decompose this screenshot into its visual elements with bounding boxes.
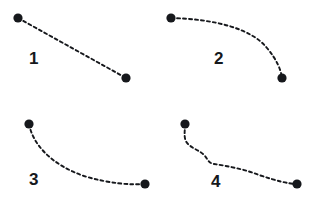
panel-4-dashed-path (185, 124, 297, 184)
panel-1-dashed-path (18, 18, 126, 78)
panel-1-label: 1 (29, 50, 38, 67)
panel-1: 1 (0, 0, 160, 101)
panel-2-end-dot (277, 73, 286, 82)
panel-3-drawing (0, 101, 160, 202)
panel-1-end-dot (121, 73, 130, 82)
panel-3-start-dot (24, 119, 33, 128)
panel-2-label: 2 (214, 50, 223, 67)
panel-2: 2 (161, 0, 321, 101)
panel-4-label: 4 (211, 173, 220, 190)
panel-4: 4 (161, 101, 321, 202)
panel-3-label: 3 (29, 171, 38, 188)
panel-3: 3 (0, 101, 160, 202)
panel-2-drawing (161, 0, 321, 101)
panel-1-drawing (0, 0, 160, 101)
panel-1-start-dot (13, 13, 22, 22)
panel-4-drawing (161, 101, 321, 202)
panel-4-start-dot (180, 119, 189, 128)
panel-2-start-dot (166, 13, 175, 22)
figure-root: 1 2 3 4 (0, 0, 321, 202)
panel-3-dashed-path (29, 124, 145, 184)
panel-2-dashed-path (171, 18, 282, 78)
panel-3-end-dot (140, 179, 149, 188)
panel-4-end-dot (292, 179, 301, 188)
